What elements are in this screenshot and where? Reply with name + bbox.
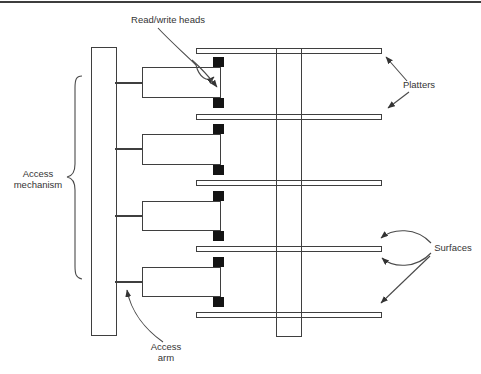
- platter-4: [196, 246, 382, 252]
- disk-mechanism-diagram: Read/write heads Platters Access mechani…: [0, 0, 481, 374]
- read-write-head-8: [213, 297, 224, 307]
- platters-arrow-upper: [386, 57, 407, 81]
- read-write-head-5: [213, 191, 224, 201]
- arm-connector-1: [115, 82, 142, 84]
- platters-arrow-lower: [388, 92, 409, 108]
- platter-3: [196, 180, 382, 186]
- read-write-head-2: [213, 98, 224, 108]
- surfaces-arrow-top-surface: [381, 231, 431, 243]
- platter-5: [196, 312, 382, 318]
- arm-connector-4: [115, 281, 142, 283]
- read-write-head-4: [213, 165, 224, 175]
- access-arm-2: [142, 134, 221, 165]
- read-write-heads-arrow-stem: [158, 28, 196, 65]
- label-access-arm: Access arm: [144, 341, 188, 363]
- access-arm-1: [142, 67, 221, 98]
- label-read-write-heads: Read/write heads: [118, 14, 218, 25]
- read-write-head-3: [213, 124, 224, 134]
- arm-connector-3: [115, 215, 142, 217]
- spindle-shaft: [276, 48, 302, 337]
- access-mechanism-column: [91, 47, 117, 336]
- top-border-rule: [0, 1, 481, 3]
- label-access-mechanism: Access mechanism: [6, 168, 70, 190]
- access-arm-3: [142, 201, 221, 231]
- label-platters: Platters: [399, 79, 439, 90]
- read-write-head-6: [213, 231, 224, 241]
- surfaces-arrow-lower-platter: [381, 256, 430, 303]
- arm-connector-2: [115, 148, 142, 150]
- access-arm-4: [142, 267, 221, 297]
- surfaces-arrow-bottom-surface: [382, 253, 431, 265]
- read-write-head-7: [213, 257, 224, 267]
- platter-2: [196, 114, 382, 120]
- label-surfaces: Surfaces: [431, 242, 475, 253]
- platter-1: [196, 48, 382, 54]
- access-arm-arrow: [127, 290, 163, 342]
- read-write-head-1: [213, 57, 224, 67]
